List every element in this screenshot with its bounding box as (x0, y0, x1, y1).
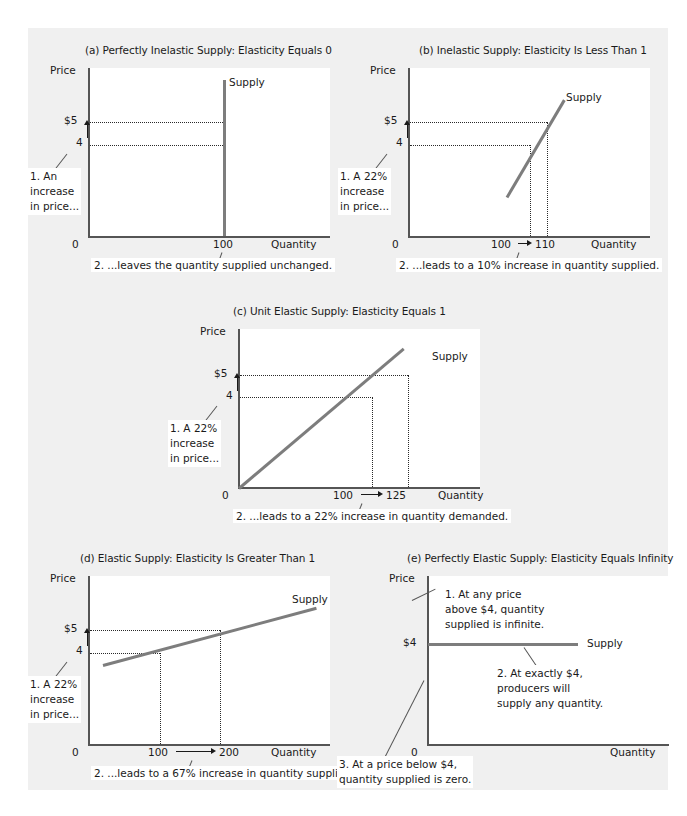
panel-e-callout3-line-1: 3. At a price below $4, (339, 757, 471, 772)
panel-e-supply-curve (428, 643, 578, 646)
panel-e-callout-2: 2. At exactly $4, producers will supply … (495, 665, 605, 712)
panel-e-price-tick: $4 (403, 636, 416, 648)
panel-e-callout2-line-2: producers will (497, 681, 603, 696)
panel-e-title: (e) Perfectly Elastic Supply: Elasticity… (407, 552, 673, 564)
panel-e-callout3-line-2: quantity supplied is zero. (339, 772, 471, 787)
panel-e-callout2-line-3: supply any quantity. (497, 696, 603, 711)
panel-e-callout3-leader (380, 680, 425, 767)
panel-e-supply-label: Supply (587, 637, 623, 649)
panel-e-callout1-line-3: supplied is infinite. (445, 617, 544, 632)
figure-page: (a) Perfectly Inelastic Supply: Elastici… (0, 0, 687, 816)
panel-e-y-axis-label: Price (389, 572, 415, 584)
panel-e-callout-3: 3. At a price below $4, quantity supplie… (337, 756, 473, 788)
panel-e-callout2-line-1: 2. At exactly $4, (497, 666, 603, 681)
panel-e-y-axis (427, 576, 429, 746)
panel-e: (e) Perfectly Elastic Supply: Elasticity… (0, 0, 687, 816)
panel-e-callout-1: 1. At any price above $4, quantity suppl… (443, 586, 546, 633)
panel-e-x-axis-label: Quantity (610, 746, 655, 758)
panel-e-callout1-line-2: above $4, quantity (445, 602, 544, 617)
panel-e-callout1-line-1: 1. At any price (445, 587, 544, 602)
